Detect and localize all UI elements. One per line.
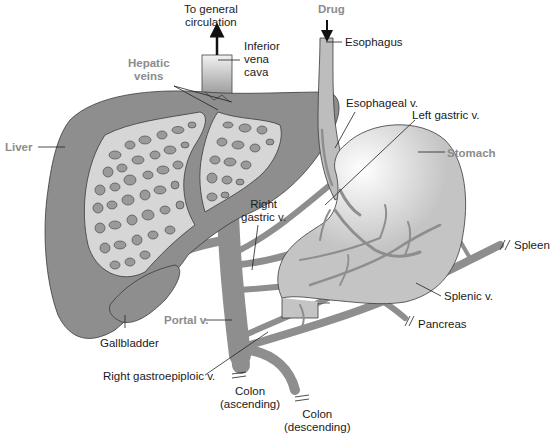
label-inferior-vena-cava: Inferior vena cava	[244, 40, 280, 79]
label-stomach: Stomach	[447, 147, 496, 160]
inferior-vena-cava	[202, 55, 232, 95]
label-to-general-circulation-line1: To general	[184, 3, 238, 16]
label-hepatic-veins: Hepatic veins	[128, 57, 170, 83]
label-right-gastric-line1: Right	[241, 198, 286, 211]
label-colon-ascending-line2: (ascending)	[220, 398, 280, 411]
label-to-general-circulation: To general circulation	[184, 3, 238, 29]
label-esophagus: Esophagus	[345, 36, 403, 49]
label-colon-descending-line2: (descending)	[284, 421, 350, 434]
label-to-general-circulation-line2: circulation	[184, 16, 238, 29]
label-colon-ascending: Colon (ascending)	[220, 385, 280, 411]
colon-descending-vein	[250, 350, 295, 390]
label-splenic-vein: Splenic v.	[444, 290, 493, 303]
label-portal-vein: Portal v.	[164, 314, 209, 327]
label-right-gastroepiploic-vein: Right gastroepiploic v.	[103, 370, 215, 383]
label-ivc-line2: vena	[244, 53, 280, 66]
label-liver: Liver	[5, 141, 33, 154]
colon-ascending-vein	[240, 355, 241, 365]
label-ivc-line1: Inferior	[244, 40, 280, 53]
label-colon-ascending-line1: Colon	[220, 385, 280, 398]
label-esophageal-vein: Esophageal v.	[346, 97, 418, 110]
label-colon-descending: Colon (descending)	[284, 408, 350, 434]
label-drug: Drug	[318, 3, 345, 16]
label-left-gastric-vein: Left gastric v.	[412, 109, 480, 122]
label-gallbladder: Gallbladder	[100, 337, 159, 350]
label-spleen: Spleen	[514, 239, 550, 252]
label-pancreas: Pancreas	[418, 318, 467, 331]
label-colon-descending-line1: Colon	[284, 408, 350, 421]
label-right-gastric-vein: Right gastric v.	[241, 198, 286, 224]
label-hepatic-veins-line1: Hepatic	[128, 57, 170, 70]
label-ivc-line3: cava	[244, 66, 280, 79]
label-right-gastric-line2: gastric v.	[241, 211, 286, 224]
label-hepatic-veins-line2: veins	[128, 70, 170, 83]
